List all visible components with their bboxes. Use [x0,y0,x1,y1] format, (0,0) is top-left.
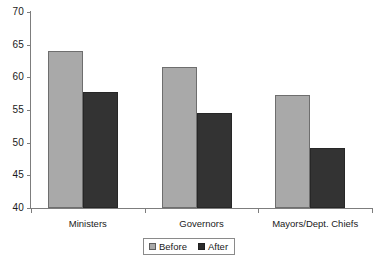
y-tick-label: 40 [12,201,24,214]
x-tick-mark-1 [145,209,146,213]
y-tick-label: 45 [12,168,24,181]
bar-chart: 40455055606570 MinistersGovernorsMayors/… [0,0,379,261]
y-tick-label: 60 [12,70,24,83]
legend-label-before: Before [159,241,187,252]
y-tick-label: 65 [12,38,24,51]
y-tick-label: 50 [12,136,24,149]
y-tick-label: 70 [12,5,24,18]
bar-before-1 [162,67,197,208]
bar-before-2 [275,95,310,208]
before-swatch-icon [149,243,156,250]
legend-entry-before: Before [149,241,187,252]
category-label-2: Mayors/Dept. Chiefs [258,218,372,230]
legend-label-after: After [208,241,228,252]
category-label-0: Ministers [31,218,145,230]
y-tick-40: 40 [0,208,31,209]
bar-before-0 [48,51,83,208]
bar-after-0 [83,92,118,208]
x-tick-mark-2 [258,209,259,213]
category-label-1: Governors [145,218,259,230]
y-tick-45: 45 [0,175,31,176]
x-tick-mark-edge-0 [31,209,32,213]
bar-after-2 [310,148,345,208]
y-tick-60: 60 [0,77,31,78]
y-tick-70: 70 [0,12,31,13]
y-tick-label: 55 [12,103,24,116]
plot-area [31,12,372,208]
legend-entry-after: After [198,241,228,252]
bar-after-1 [197,113,232,208]
y-tick-65: 65 [0,45,31,46]
y-tick-50: 50 [0,143,31,144]
after-swatch-icon [198,243,205,250]
x-axis-line [30,208,373,209]
y-tick-55: 55 [0,110,31,111]
chart-legend: Before After [143,238,235,255]
x-tick-mark-edge-1 [372,209,373,213]
